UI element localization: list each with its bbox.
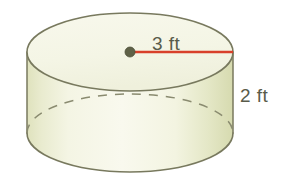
- center-point-dot: [125, 47, 135, 57]
- height-dimension-label: 2 ft: [240, 86, 268, 105]
- radius-dimension-label: 3 ft: [152, 34, 180, 53]
- cylinder-figure: 3 ft 2 ft: [0, 0, 301, 185]
